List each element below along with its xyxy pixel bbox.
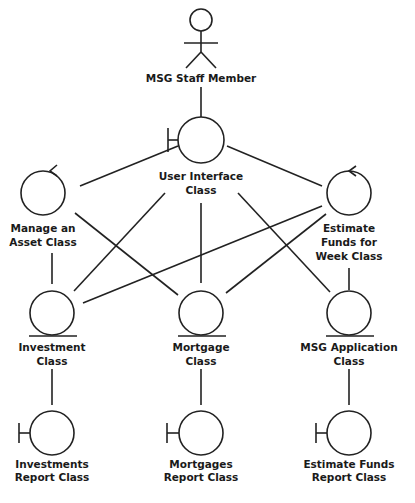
- edge-manage-mortgage: [75, 213, 178, 295]
- node-label-line-1: MSG Application: [300, 341, 397, 353]
- boundary-icon: [316, 411, 371, 455]
- node-label-line-1: Mortgages: [169, 458, 232, 470]
- node-label-line-1: Investments: [15, 458, 88, 470]
- control-icon: [21, 165, 65, 215]
- node-manage-an-asset-class[interactable]: Manage an Asset Class: [9, 165, 76, 248]
- edge-estimate-investment: [83, 206, 322, 303]
- actor-label: MSG Staff Member: [146, 72, 257, 84]
- boundary-icon: [19, 411, 74, 455]
- node-label-line-1: User Interface: [159, 170, 243, 182]
- node-msg-application-class[interactable]: MSG Application Class: [300, 291, 397, 367]
- node-label-line-1: Mortgage: [172, 341, 229, 353]
- node-label-line-2: Funds for: [321, 236, 378, 248]
- node-label-line-2: Class: [334, 355, 365, 367]
- node-estimate-funds-report-class[interactable]: Estimate Funds Report Class: [303, 411, 394, 483]
- boundary-icon: [167, 411, 223, 455]
- node-label-line-1: Investment: [18, 341, 85, 353]
- entity-icon: [29, 291, 77, 336]
- node-investment-class[interactable]: Investment Class: [18, 291, 85, 367]
- node-label-line-2: Class: [186, 355, 217, 367]
- node-mortgage-class[interactable]: Mortgage Class: [172, 291, 229, 367]
- node-label-line-2: Report Class: [15, 471, 90, 483]
- node-label-line-1: Estimate Funds: [303, 458, 394, 470]
- edge-estimate-mortgage: [226, 214, 326, 293]
- robustness-diagram: MSG Staff Member User Interface Class Ma…: [0, 0, 415, 503]
- node-label-line-1: Estimate: [323, 222, 375, 234]
- actor-msg-staff-member[interactable]: MSG Staff Member: [146, 9, 257, 84]
- node-investments-report-class[interactable]: Investments Report Class: [15, 411, 90, 483]
- entity-icon: [178, 291, 226, 336]
- edge-ui-investment: [74, 193, 165, 291]
- boundary-icon: [168, 117, 224, 163]
- stick-figure-icon: [184, 9, 218, 68]
- node-label-line-2: Report Class: [312, 471, 387, 483]
- node-label-line-2: Report Class: [164, 471, 239, 483]
- node-label-line-2: Class: [186, 184, 217, 196]
- control-icon: [327, 166, 371, 215]
- node-label-line-2: Class: [37, 355, 68, 367]
- node-user-interface-class[interactable]: User Interface Class: [159, 117, 243, 196]
- node-label-line-1: Manage an: [11, 222, 76, 234]
- node-label-line-2: Asset Class: [9, 236, 76, 248]
- node-mortgages-report-class[interactable]: Mortgages Report Class: [164, 411, 239, 483]
- node-label-line-3: Week Class: [316, 250, 383, 262]
- entity-icon: [326, 291, 374, 336]
